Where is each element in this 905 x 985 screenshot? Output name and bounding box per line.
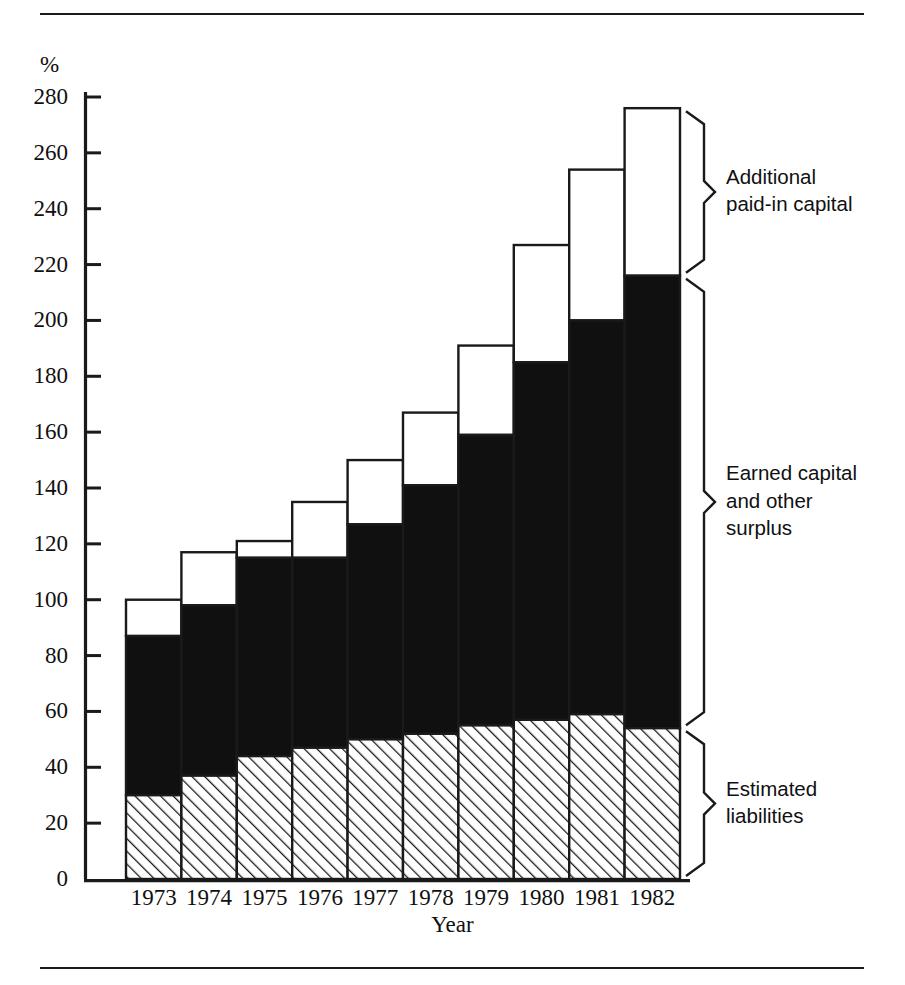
segment-estimated-liabilities <box>126 795 181 879</box>
segment-estimated-liabilities <box>458 725 513 879</box>
y-tick-label-280: 280 <box>12 85 68 108</box>
segment-additional-paid-in-capital <box>292 502 347 558</box>
legend-label-earned-capital-and-other-surplus: Earned capital and other surplus <box>726 459 857 540</box>
segment-earned-capital <box>569 320 624 714</box>
segment-estimated-liabilities <box>348 739 403 879</box>
y-tick-label-140: 140 <box>12 476 68 499</box>
x-tick-label-1982: 1982 <box>620 886 685 909</box>
segment-earned-capital <box>514 362 569 719</box>
segment-earned-capital <box>348 524 403 739</box>
bar-1974 <box>181 552 236 879</box>
x-axis-title: Year <box>0 912 905 938</box>
bar-1979 <box>458 346 513 879</box>
y-tick-label-100: 100 <box>12 588 68 611</box>
segment-estimated-liabilities <box>625 728 680 879</box>
bar-1975 <box>237 541 292 879</box>
segment-additional-paid-in-capital <box>458 346 513 435</box>
segment-earned-capital <box>126 636 181 795</box>
y-tick-label-220: 220 <box>12 253 68 276</box>
segment-additional-paid-in-capital <box>403 413 458 486</box>
bar-1978 <box>403 413 458 879</box>
bar-1973 <box>126 600 181 879</box>
bar-1981 <box>569 170 624 879</box>
brace-estimated-liabilities <box>686 731 715 876</box>
brace-additional-paid-in-capital <box>686 111 715 273</box>
segment-estimated-liabilities <box>569 714 624 879</box>
segment-additional-paid-in-capital <box>181 552 236 605</box>
y-tick-label-0: 0 <box>12 867 68 890</box>
y-tick-label-200: 200 <box>12 308 68 331</box>
y-tick-label-20: 20 <box>12 811 68 834</box>
segment-estimated-liabilities <box>292 748 347 879</box>
y-tick-label-40: 40 <box>12 755 68 778</box>
segment-additional-paid-in-capital <box>126 600 181 636</box>
bar-1982 <box>625 108 680 879</box>
legend-brace-group <box>686 111 715 876</box>
segment-estimated-liabilities <box>181 776 236 879</box>
segment-earned-capital <box>237 558 292 756</box>
segment-earned-capital <box>403 485 458 734</box>
segment-additional-paid-in-capital <box>237 541 292 558</box>
segment-additional-paid-in-capital <box>569 170 624 321</box>
y-tick-label-160: 160 <box>12 420 68 443</box>
segment-earned-capital <box>625 276 680 728</box>
y-tick-label-60: 60 <box>12 699 68 722</box>
segment-additional-paid-in-capital <box>348 460 403 524</box>
y-tick-label-120: 120 <box>12 532 68 555</box>
segment-estimated-liabilities <box>514 720 569 879</box>
y-tick-label-80: 80 <box>12 644 68 667</box>
segment-additional-paid-in-capital <box>625 108 680 276</box>
segment-estimated-liabilities <box>237 756 292 879</box>
y-tick-label-180: 180 <box>12 364 68 387</box>
legend-label-additional-paid-in-capital: Additional paid-in capital <box>726 163 853 217</box>
bar-1976 <box>292 502 347 879</box>
y-tick-label-260: 260 <box>12 141 68 164</box>
bar-group <box>126 108 680 879</box>
legend-label-estimated-liabilities: Estimated liabilities <box>726 775 817 829</box>
y-tick-label-240: 240 <box>12 197 68 220</box>
segment-additional-paid-in-capital <box>514 245 569 362</box>
segment-earned-capital <box>292 558 347 748</box>
bar-1980 <box>514 245 569 879</box>
bar-1977 <box>348 460 403 879</box>
brace-earned-capital-and-other-surplus <box>686 279 715 725</box>
segment-earned-capital <box>458 435 513 725</box>
segment-earned-capital <box>181 605 236 775</box>
segment-estimated-liabilities <box>403 734 458 879</box>
